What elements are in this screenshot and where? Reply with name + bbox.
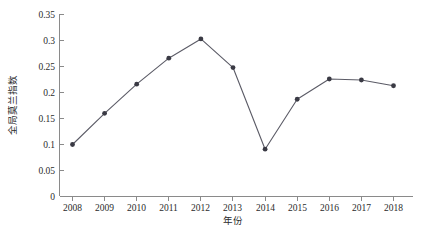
x-tick-label: 2015 (288, 203, 307, 213)
data-point (295, 97, 300, 102)
x-tick-label: 2011 (159, 203, 178, 213)
y-tick-label: 0.15 (38, 114, 55, 124)
data-point (231, 65, 236, 70)
y-tick-label: 0.2 (43, 88, 55, 98)
x-tick-label: 2014 (256, 203, 275, 213)
y-tick-label: 0.1 (43, 140, 55, 150)
data-point (102, 111, 107, 116)
data-point (199, 37, 204, 42)
y-tick-label: 0.05 (38, 166, 55, 176)
x-tick-label: 2017 (352, 203, 371, 213)
data-point (359, 78, 364, 83)
data-point (263, 147, 268, 152)
y-tick-label: 0.25 (38, 62, 55, 72)
data-point (70, 142, 75, 147)
y-axis-title: 全局莫兰指数 (7, 75, 18, 135)
data-point (391, 83, 396, 88)
x-tick-label: 2010 (127, 203, 146, 213)
data-point (327, 77, 332, 82)
y-tick-label: 0.3 (43, 36, 55, 46)
x-tick-label: 2009 (95, 203, 114, 213)
y-tick-label: 0.35 (38, 10, 55, 20)
x-tick-label: 2016 (320, 203, 339, 213)
y-tick-label: 0 (50, 192, 55, 202)
line-chart: 0.35 0.3 0.25 0.2 0.15 0.1 0.05 0 2008 2… (0, 0, 423, 236)
data-point (166, 56, 171, 61)
x-tick-label: 2013 (223, 203, 242, 213)
data-point (134, 82, 139, 87)
x-tick-label: 2012 (191, 203, 210, 213)
x-tick-label: 2008 (63, 203, 82, 213)
x-tick-label: 2018 (384, 203, 403, 213)
x-axis-title: 年份 (223, 215, 243, 226)
chart-figure: 0.35 0.3 0.25 0.2 0.15 0.1 0.05 0 2008 2… (0, 0, 423, 236)
